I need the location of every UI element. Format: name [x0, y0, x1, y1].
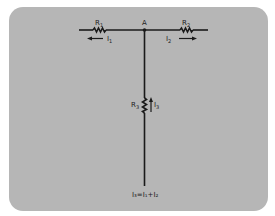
- label-r3: R3: [131, 101, 139, 110]
- equation-label: I₃=I₁+I₂: [132, 191, 159, 199]
- resistor-r2-icon: [180, 28, 193, 32]
- label-r2: R2: [182, 19, 190, 28]
- label-node-a: A: [142, 19, 147, 27]
- label-r1: R1: [95, 19, 103, 28]
- arrow-i2-icon: [179, 37, 197, 41]
- circuit-diagram: R1 A R2 I1 I2 R3 I3 I₃=I₁+I₂: [0, 0, 275, 216]
- label-i3: I3: [154, 101, 159, 110]
- resistor-r3-icon: [143, 98, 147, 113]
- vertical-wire: [143, 30, 147, 186]
- label-i1: I1: [107, 35, 112, 44]
- label-i2: I2: [166, 35, 171, 44]
- arrow-i3-icon: [149, 97, 153, 112]
- arrow-i1-icon: [87, 37, 103, 41]
- resistor-r1-icon: [93, 28, 106, 32]
